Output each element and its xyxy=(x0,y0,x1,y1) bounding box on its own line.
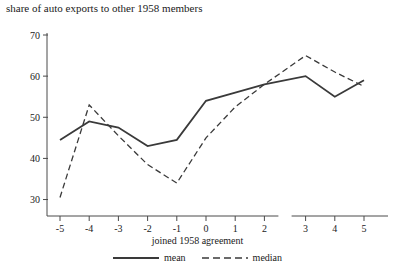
series-line-mean xyxy=(60,76,364,146)
legend-swatch-dashed xyxy=(202,254,248,262)
x-tick-label: 2 xyxy=(262,223,267,234)
x-axis-title: joined 1958 agreement xyxy=(152,235,244,247)
x-tick-label: -3 xyxy=(114,223,122,234)
x-tick-label: -1 xyxy=(173,223,181,234)
x-tick-label: -2 xyxy=(143,223,151,234)
legend-label-median: median xyxy=(253,252,282,263)
y-tick-label: 60 xyxy=(30,71,40,82)
y-tick-label: 70 xyxy=(30,30,40,41)
x-tick-label: -5 xyxy=(56,223,64,234)
x-tick-label: 0 xyxy=(204,223,209,234)
x-axis-ticks: -5-4-3-2-1012345 xyxy=(56,216,367,234)
x-tick-label: 4 xyxy=(332,223,337,234)
legend-item-median: median xyxy=(202,252,282,263)
x-tick-label: -4 xyxy=(85,223,93,234)
x-tick-label: 1 xyxy=(233,223,238,234)
chart-container: share of auto exports to other 1958 memb… xyxy=(0,0,395,277)
x-tick-label: 3 xyxy=(303,223,308,234)
legend-swatch-solid xyxy=(113,254,159,262)
data-series-group xyxy=(60,56,364,198)
chart-legend: mean median xyxy=(0,252,395,263)
series-line-median xyxy=(60,56,364,198)
y-tick-label: 50 xyxy=(30,112,40,123)
legend-item-mean: mean xyxy=(113,252,186,263)
y-tick-label: 30 xyxy=(30,194,40,205)
legend-label-mean: mean xyxy=(164,252,186,263)
x-tick-label: 5 xyxy=(362,223,367,234)
y-tick-label: 40 xyxy=(30,153,40,164)
y-axis-ticks: 3040506070 xyxy=(30,30,48,206)
